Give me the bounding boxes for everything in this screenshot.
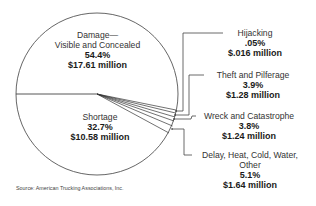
label-hijacking: Hijacking .05% $.016 million — [215, 28, 295, 58]
hijacking-value: $.016 million — [215, 48, 295, 58]
theft-value: $1.28 million — [203, 90, 303, 100]
damage-name-line1: Damage— — [40, 30, 155, 40]
label-wreck: Wreck and Catastrophe 3.8% $1.24 million — [193, 111, 305, 141]
delay-percent: 5.1% — [190, 170, 310, 180]
shortage-value: $10.58 million — [60, 132, 140, 142]
shortage-name: Shortage — [60, 112, 140, 122]
source-note: Source: American Trucking Associations, … — [16, 185, 124, 191]
damage-percent: 54.4% — [40, 50, 155, 60]
hijacking-percent: .05% — [215, 38, 295, 48]
hijacking-name: Hijacking — [215, 28, 295, 38]
delay-name-line1: Delay, Heat, Cold, Water, — [190, 150, 310, 160]
wreck-percent: 3.8% — [193, 121, 305, 131]
leader-delay — [172, 129, 192, 155]
delay-value: $1.64 million — [190, 180, 310, 190]
theft-percent: 3.9% — [203, 80, 303, 90]
label-theft: Theft and Pilferage 3.9% $1.28 million — [203, 70, 303, 100]
label-damage: Damage— Visible and Concealed 54.4% $17.… — [40, 30, 155, 70]
delay-name-line2: Other — [190, 160, 310, 170]
leader-theft — [175, 75, 204, 115]
label-shortage: Shortage 32.7% $10.58 million — [60, 112, 140, 142]
shortage-percent: 32.7% — [60, 122, 140, 132]
label-delay: Delay, Heat, Cold, Water, Other 5.1% $1.… — [190, 150, 310, 190]
damage-name-line2: Visible and Concealed — [40, 40, 155, 50]
theft-name: Theft and Pilferage — [203, 70, 303, 80]
wreck-name: Wreck and Catastrophe — [193, 111, 305, 121]
wreck-value: $1.24 million — [193, 131, 305, 141]
damage-value: $17.61 million — [40, 60, 155, 70]
